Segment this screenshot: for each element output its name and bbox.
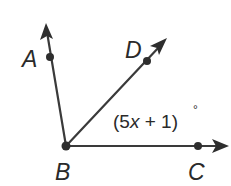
ray-bc <box>66 139 229 153</box>
constant: 1 <box>161 111 172 132</box>
coefficient: 5 <box>119 111 130 132</box>
point-c <box>194 142 202 150</box>
arrow-head-a-icon <box>40 23 53 40</box>
angle-measure-label: (5x + 1) <box>113 111 178 132</box>
operator: + <box>139 111 161 132</box>
point-d <box>143 57 151 65</box>
label-b: B <box>55 159 70 185</box>
ray-ba <box>40 23 66 146</box>
label-c: C <box>188 159 205 185</box>
close-paren: ) <box>172 111 178 132</box>
point-b <box>62 142 71 151</box>
degree-symbol: ° <box>193 103 198 117</box>
angle-diagram: A D B C (5x + 1) ° <box>0 0 231 186</box>
label-a: A <box>20 46 37 72</box>
label-d: D <box>125 37 142 63</box>
point-a <box>46 53 54 61</box>
